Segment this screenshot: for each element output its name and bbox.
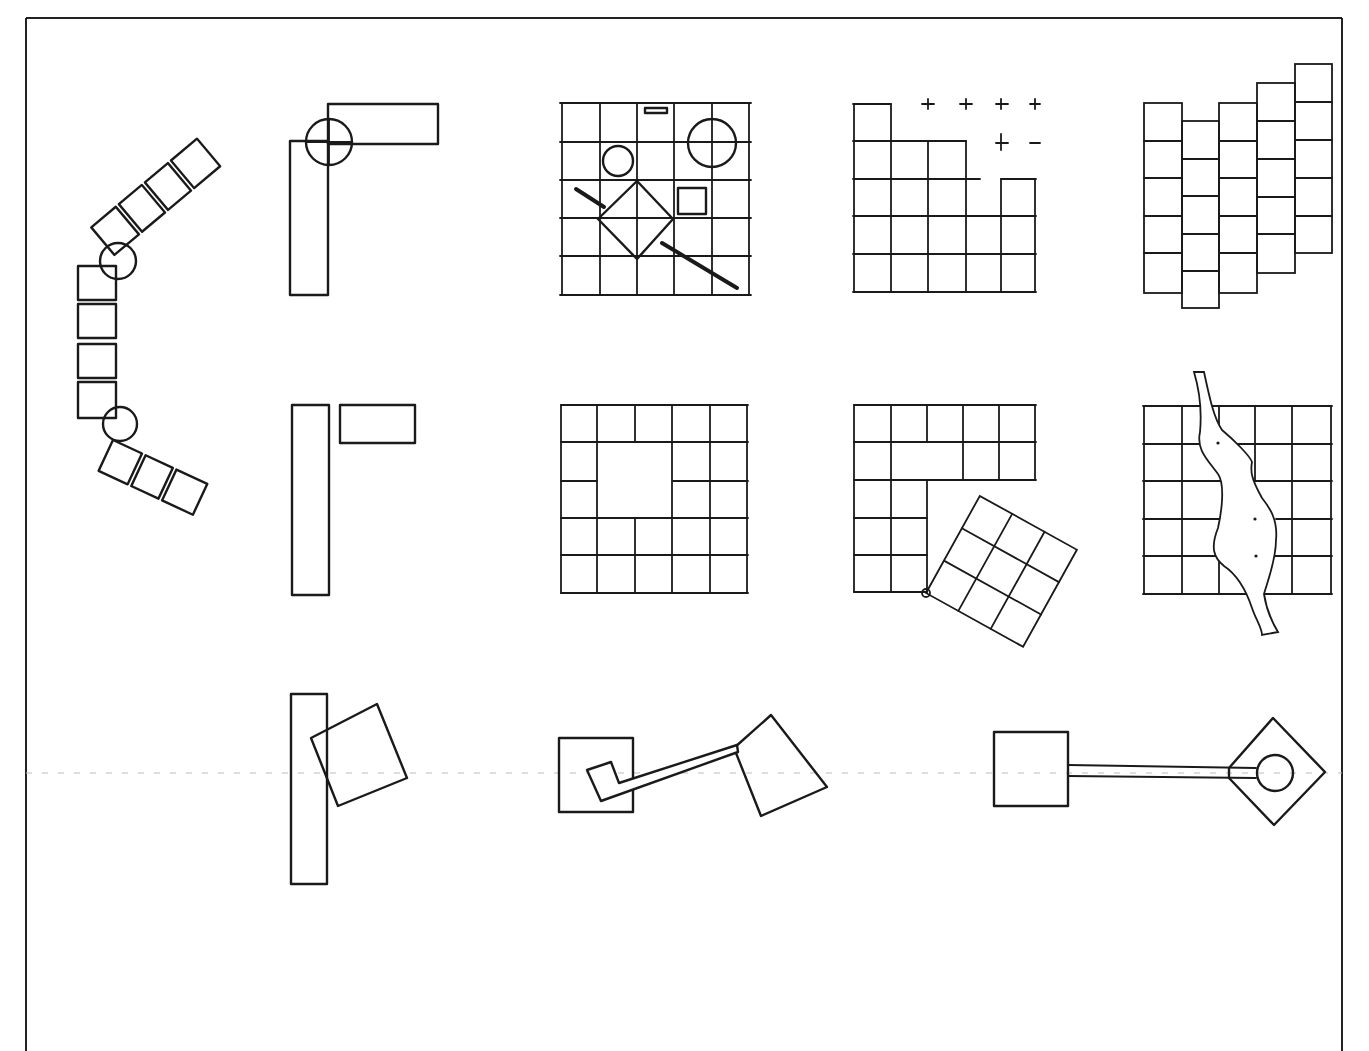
figure-grid-eroding [853,99,1040,292]
figure-bar-rotated-square [291,694,407,884]
figure-grid-rotated-subgrid [854,405,1077,647]
figure-squares-linked [559,715,827,816]
figure-l-overlap-circle [290,104,438,295]
figure-curved-chain [78,139,220,515]
diagram-canvas [0,0,1369,1051]
figure-l-separated [292,405,415,595]
figure-staggered-columns [1144,64,1332,308]
figure-grid-void [561,405,748,593]
figure-square-path-diamond [994,718,1325,825]
sketch-sheet [0,0,1369,1051]
figure-grid-with-objects [560,103,751,295]
figure-grid-river [1143,372,1332,635]
